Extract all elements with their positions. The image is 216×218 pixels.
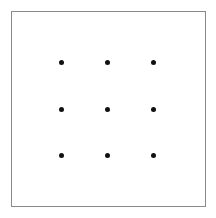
dot-r1c1 xyxy=(59,60,64,65)
dot-r3c1 xyxy=(59,153,64,158)
dot-r1c3 xyxy=(151,60,156,65)
dot-grid xyxy=(0,0,216,218)
dot-r2c3 xyxy=(151,107,156,112)
dot-r1c2 xyxy=(105,60,110,65)
figure-canvas xyxy=(0,0,216,218)
dot-r3c2 xyxy=(105,153,110,158)
dot-r2c1 xyxy=(59,107,64,112)
dot-r2c2 xyxy=(105,107,110,112)
dot-r3c3 xyxy=(151,153,156,158)
